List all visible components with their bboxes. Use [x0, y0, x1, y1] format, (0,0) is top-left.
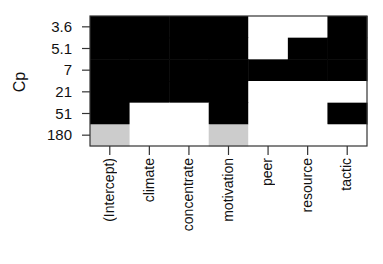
- heatmap-cell: [169, 81, 209, 103]
- heatmap-cell: [169, 38, 209, 60]
- heatmap-cell: [209, 103, 249, 125]
- heatmap-cell: [209, 124, 249, 146]
- heatmap-cell: [130, 38, 170, 60]
- heatmap-cell: [169, 16, 209, 38]
- heatmap-cell: [209, 59, 249, 81]
- heatmap-cell: [327, 59, 367, 81]
- y-tick-label: 21: [55, 84, 72, 100]
- heatmap-cell: [248, 124, 288, 146]
- heatmap-cell: [327, 124, 367, 146]
- heatmap-cell: [327, 38, 367, 60]
- heatmap-cell: [90, 124, 130, 146]
- y-tick-label: 51: [55, 106, 72, 122]
- heatmap-cell: [90, 16, 130, 38]
- heatmap-cell: [209, 38, 249, 60]
- y-tick-label: 5.1: [51, 41, 72, 57]
- heatmap-cell: [90, 103, 130, 125]
- heatmap-cell: [288, 38, 328, 60]
- heatmap-cell: [327, 81, 367, 103]
- y-axis-title: Cp: [8, 70, 32, 94]
- heatmap-cell: [90, 38, 130, 60]
- heatmap-cell: [209, 16, 249, 38]
- heatmap-cell: [248, 81, 288, 103]
- x-tick-label: concentrate: [180, 158, 196, 231]
- x-tick-label: resource: [299, 158, 315, 212]
- heatmap-cell: [288, 16, 328, 38]
- heatmap-cell: [248, 16, 288, 38]
- heatmap-cell: [209, 81, 249, 103]
- heatmap-cell: [169, 124, 209, 146]
- heatmap-cell: [327, 16, 367, 38]
- heatmap-cell: [248, 38, 288, 60]
- heatmap-cell: [327, 103, 367, 125]
- y-tick-label: 3.6: [51, 19, 72, 35]
- heatmap-cell: [288, 103, 328, 125]
- heatmap-cell: [248, 103, 288, 125]
- heatmap-cell: [169, 103, 209, 125]
- x-tick-label: (Intercept): [101, 158, 117, 222]
- heatmap-cell: [130, 124, 170, 146]
- x-tick-label: motivation: [220, 158, 236, 222]
- subset-selection-plot: Cp 3.6 5.1 7 21 51 180 (Intercept) clima…: [0, 0, 383, 264]
- heatmap-cell: [288, 81, 328, 103]
- heatmap-cell: [130, 16, 170, 38]
- heatmap-cell: [90, 59, 130, 81]
- heatmap-cell: [169, 59, 209, 81]
- heatmap-cell: [130, 103, 170, 125]
- heatmap-cell: [288, 124, 328, 146]
- x-tick-label: peer: [259, 158, 275, 186]
- heatmap-cell: [288, 59, 328, 81]
- heatmap-cell: [130, 59, 170, 81]
- y-tick-label: 180: [47, 127, 72, 143]
- y-tick-label: 7: [64, 62, 72, 78]
- x-tick-label: climate: [141, 158, 157, 202]
- heatmap-cell: [248, 59, 288, 81]
- x-tick-label: tactic: [338, 158, 354, 191]
- heatmap-cell: [130, 81, 170, 103]
- heatmap-cell: [90, 81, 130, 103]
